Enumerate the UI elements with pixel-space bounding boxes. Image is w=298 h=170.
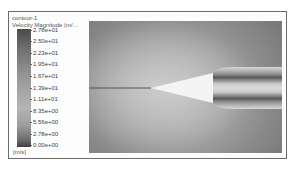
legend-title-line1: contour-1 bbox=[12, 15, 78, 22]
colorbar bbox=[17, 29, 31, 147]
colorbar-tick: 1.39e+01 bbox=[33, 85, 58, 92]
colorbar-tick: 2.50e+01 bbox=[33, 38, 58, 45]
colorbar-tick: 1.95e+01 bbox=[33, 61, 58, 68]
colorbar-tick: 2.78e+00 bbox=[33, 131, 58, 138]
colorbar-tick: 1.67e+01 bbox=[33, 73, 58, 80]
colorbar-tick: 1.11e+01 bbox=[33, 96, 58, 103]
colorbar-tick: 5.56e+00 bbox=[33, 119, 58, 126]
colorbar-tick: 0.00e+00 bbox=[33, 142, 58, 149]
contour-field bbox=[89, 21, 282, 153]
colorbar-tick: 2.23e+01 bbox=[33, 50, 58, 57]
contour-plot bbox=[89, 21, 282, 153]
body-wake-region bbox=[213, 67, 282, 109]
colorbar-tick: 8.35e+00 bbox=[33, 108, 58, 115]
colorbar-tick: 2.78e+01 bbox=[33, 27, 58, 34]
units-label: [m/s] bbox=[13, 149, 26, 155]
